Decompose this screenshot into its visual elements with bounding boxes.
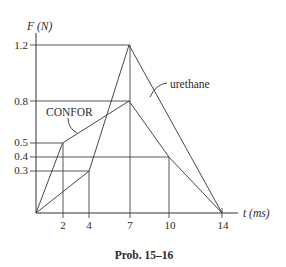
urethane-callout (150, 83, 167, 97)
x-tick-label: 4 (86, 219, 92, 231)
y-tick-label: 0.8 (14, 95, 28, 107)
y-axis-label: F (N) (26, 20, 52, 33)
confor-label: CONFOR (46, 106, 93, 118)
x-tick-label: 10 (165, 219, 177, 231)
x-tick-label: 2 (60, 219, 66, 231)
force-time-chart: 1.2 0.8 0.5 0.4 0.3 2 4 7 10 14 F (N) t … (0, 0, 286, 267)
x-tick-label: 14 (218, 219, 230, 231)
y-tick-label: 0.5 (14, 136, 28, 148)
figure-caption: Prob. 15–16 (115, 249, 174, 261)
urethane-series-line (36, 45, 222, 213)
urethane-label: urethane (170, 78, 210, 90)
confor-callout (68, 118, 77, 133)
y-tick-label: 0.4 (14, 150, 28, 162)
x-tick-label: 7 (127, 219, 133, 231)
y-tick-label: 1.2 (14, 39, 28, 51)
x-axis-label: t (ms) (243, 207, 270, 220)
y-tick-label: 0.3 (14, 164, 28, 176)
